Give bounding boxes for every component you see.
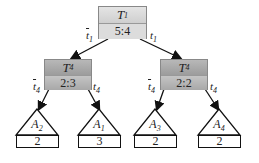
node-name: T xyxy=(178,60,185,76)
leaf-name: A1 xyxy=(84,117,114,133)
node-name: T xyxy=(62,60,69,76)
node-sub: 4 xyxy=(70,63,74,72)
leaf-value: 2 xyxy=(198,135,241,148)
left-node: T4 2:3 xyxy=(44,59,92,90)
edge-label: t4 xyxy=(93,80,100,95)
leaf-value: 2 xyxy=(134,135,177,148)
edge-label: t1 xyxy=(86,29,93,44)
root-node: T1 5:4 xyxy=(98,6,147,39)
edge-label: t4 xyxy=(33,80,40,95)
node-value: 5:4 xyxy=(99,24,146,39)
leaf-name: A4 xyxy=(204,117,234,133)
edge-label: t4 xyxy=(148,80,155,95)
right-node: T4 2:2 xyxy=(160,59,208,90)
leaf-name: A2 xyxy=(22,117,52,133)
node-name: T xyxy=(117,7,124,23)
node-value: 2:3 xyxy=(45,76,91,90)
edge-label: t4 xyxy=(210,80,217,95)
leaf-name: A3 xyxy=(140,117,170,133)
edge-label: t1 xyxy=(150,29,157,44)
node-sub: 1 xyxy=(124,11,128,20)
node-sub: 4 xyxy=(186,63,190,72)
leaf-value: 2 xyxy=(16,135,59,148)
node-value: 2:2 xyxy=(161,76,207,90)
leaf-value: 3 xyxy=(78,135,121,148)
